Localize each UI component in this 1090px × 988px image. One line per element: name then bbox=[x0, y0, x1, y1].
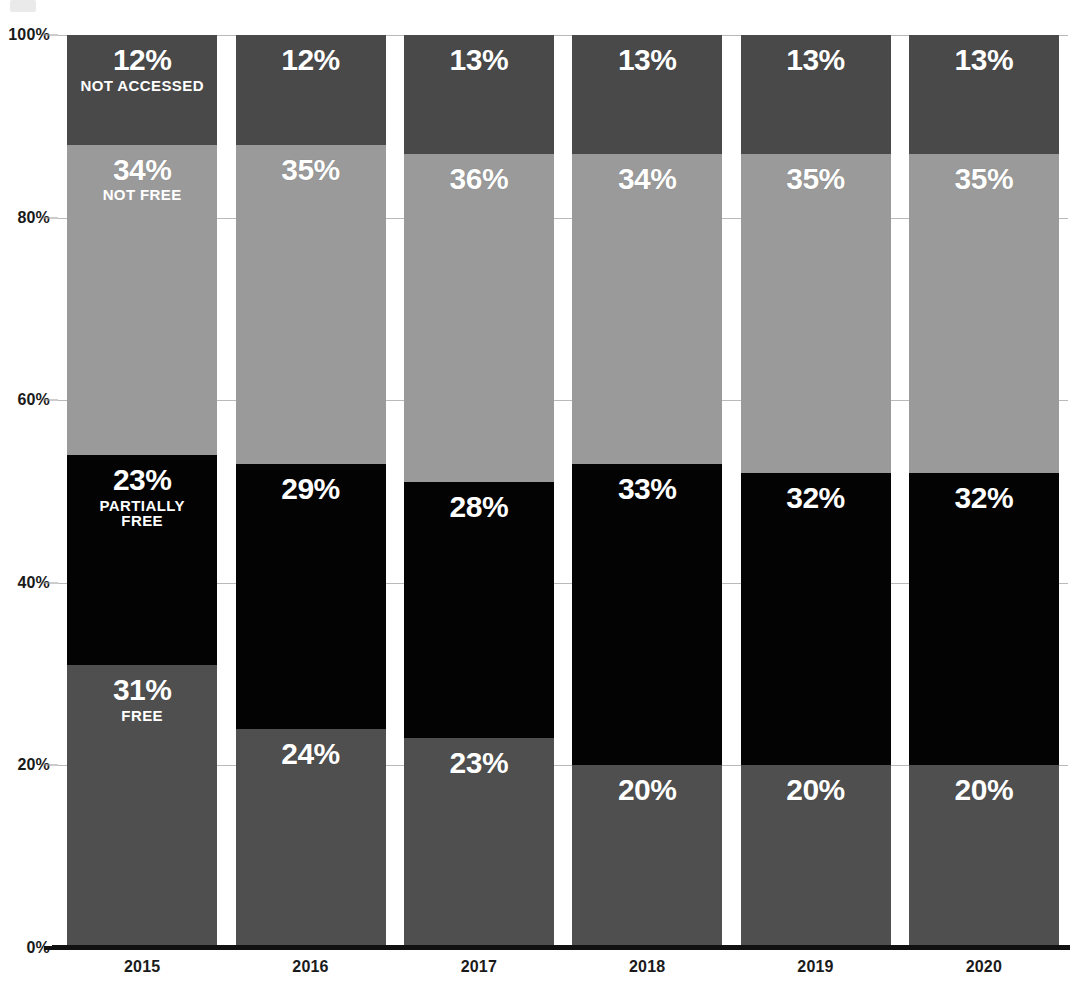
segment-free-2016[interactable]: 24% bbox=[236, 729, 386, 948]
segment-value-label: 28% bbox=[450, 492, 509, 523]
bar-2017[interactable]: 23%28%36%13% bbox=[404, 35, 554, 948]
segment-value-label: 32% bbox=[786, 483, 845, 514]
y-tick-mark bbox=[44, 582, 58, 583]
segment-value-label: 23% bbox=[450, 748, 509, 779]
segment-value-label: 35% bbox=[955, 164, 1014, 195]
x-axis-baseline bbox=[52, 945, 1070, 950]
y-tick-mark bbox=[44, 217, 58, 218]
x-tick-label-2018: 2018 bbox=[572, 958, 722, 976]
segment-partially-2015[interactable]: 23%PARTIALLY FREE bbox=[67, 455, 217, 665]
plot-area: 31%FREE23%PARTIALLY FREE34%NOT FREE12%NO… bbox=[58, 35, 1068, 948]
segment-partially-2019[interactable]: 32% bbox=[741, 473, 891, 765]
segment-value-label: 12% bbox=[281, 45, 340, 76]
segment-value-label: 34% bbox=[618, 164, 677, 195]
segment-value-label: 34% bbox=[113, 155, 172, 186]
segment-value-label: 24% bbox=[281, 739, 340, 770]
y-tick-label: 40% bbox=[0, 574, 50, 592]
segment-value-label: 31% bbox=[113, 675, 172, 706]
segment-value-label: 36% bbox=[450, 164, 509, 195]
segment-value-label: 13% bbox=[955, 45, 1014, 76]
segment-value-label: 13% bbox=[786, 45, 845, 76]
segment-value-label: 20% bbox=[955, 775, 1014, 806]
y-tick-label: 20% bbox=[0, 756, 50, 774]
y-tick-mark bbox=[44, 35, 58, 36]
segment-value-label: 35% bbox=[786, 164, 845, 195]
y-axis-labels: 0%20%40%60%80%100% bbox=[0, 35, 50, 948]
segment-value-label: 13% bbox=[450, 45, 509, 76]
bar-2018[interactable]: 20%33%34%13% bbox=[572, 35, 722, 948]
y-tick-mark bbox=[44, 400, 58, 401]
y-tick-label: 0% bbox=[0, 939, 50, 957]
segment-legend-label-notaccessed: NOT ACCESSED bbox=[80, 78, 203, 94]
segment-value-label: 29% bbox=[281, 474, 340, 505]
bar-2019[interactable]: 20%32%35%13% bbox=[741, 35, 891, 948]
x-axis-labels: 201520162017201820192020 bbox=[58, 952, 1068, 988]
segment-notfree-2019[interactable]: 35% bbox=[741, 154, 891, 474]
segment-notaccessed-2016[interactable]: 12% bbox=[236, 35, 386, 145]
segment-legend-label-free: FREE bbox=[121, 708, 163, 724]
segment-value-label: 20% bbox=[786, 775, 845, 806]
segment-notfree-2017[interactable]: 36% bbox=[404, 154, 554, 483]
bar-2016[interactable]: 24%29%35%12% bbox=[236, 35, 386, 948]
segment-value-label: 35% bbox=[281, 155, 340, 186]
segment-partially-2016[interactable]: 29% bbox=[236, 464, 386, 729]
segment-legend-label-partially: PARTIALLY FREE bbox=[100, 498, 185, 530]
y-tick-mark bbox=[44, 765, 58, 766]
y-tick-label: 60% bbox=[0, 391, 50, 409]
segment-legend-label-notfree: NOT FREE bbox=[103, 187, 182, 203]
segment-free-2019[interactable]: 20% bbox=[741, 765, 891, 948]
scan-artifact bbox=[10, 0, 36, 12]
segment-value-label: 12% bbox=[113, 45, 172, 76]
segment-free-2018[interactable]: 20% bbox=[572, 765, 722, 948]
segment-notfree-2018[interactable]: 34% bbox=[572, 154, 722, 464]
segment-value-label: 13% bbox=[618, 45, 677, 76]
segment-notaccessed-2018[interactable]: 13% bbox=[572, 35, 722, 154]
segment-notaccessed-2015[interactable]: 12%NOT ACCESSED bbox=[67, 35, 217, 145]
x-tick-label-2019: 2019 bbox=[741, 958, 891, 976]
segment-free-2020[interactable]: 20% bbox=[909, 765, 1059, 948]
stacked-bar-chart: 0%20%40%60%80%100% 31%FREE23%PARTIALLY F… bbox=[0, 0, 1090, 988]
segment-notfree-2015[interactable]: 34%NOT FREE bbox=[67, 145, 217, 455]
segment-free-2015[interactable]: 31%FREE bbox=[67, 665, 217, 948]
segment-notaccessed-2020[interactable]: 13% bbox=[909, 35, 1059, 154]
x-tick-label-2020: 2020 bbox=[909, 958, 1059, 976]
segment-value-label: 23% bbox=[113, 465, 172, 496]
segment-partially-2018[interactable]: 33% bbox=[572, 464, 722, 765]
y-tick-label: 100% bbox=[0, 26, 50, 44]
segment-partially-2020[interactable]: 32% bbox=[909, 473, 1059, 765]
bar-2015[interactable]: 31%FREE23%PARTIALLY FREE34%NOT FREE12%NO… bbox=[67, 35, 217, 948]
segment-notaccessed-2019[interactable]: 13% bbox=[741, 35, 891, 154]
segment-value-label: 33% bbox=[618, 474, 677, 505]
y-tick-label: 80% bbox=[0, 209, 50, 227]
segment-notfree-2020[interactable]: 35% bbox=[909, 154, 1059, 474]
x-tick-label-2016: 2016 bbox=[236, 958, 386, 976]
segment-value-label: 20% bbox=[618, 775, 677, 806]
bar-2020[interactable]: 20%32%35%13% bbox=[909, 35, 1059, 948]
x-tick-label-2017: 2017 bbox=[404, 958, 554, 976]
segment-notfree-2016[interactable]: 35% bbox=[236, 145, 386, 465]
segment-notaccessed-2017[interactable]: 13% bbox=[404, 35, 554, 154]
segment-free-2017[interactable]: 23% bbox=[404, 738, 554, 948]
bar-group: 31%FREE23%PARTIALLY FREE34%NOT FREE12%NO… bbox=[58, 35, 1068, 948]
segment-value-label: 32% bbox=[955, 483, 1014, 514]
segment-partially-2017[interactable]: 28% bbox=[404, 482, 554, 738]
x-tick-label-2015: 2015 bbox=[67, 958, 217, 976]
